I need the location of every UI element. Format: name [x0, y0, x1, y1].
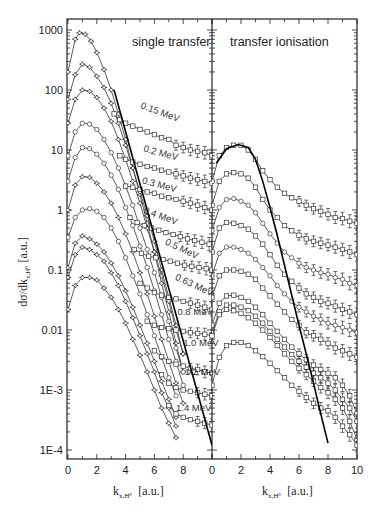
panel-title-single-transfer: single transfer	[132, 35, 211, 49]
x-tick-label: 10	[351, 464, 363, 476]
y-axis-title: dσ/dkx,H⁰ [a.u.]	[16, 237, 32, 306]
x-axis-title-right: kx,H⁰[a.u.]	[262, 484, 313, 500]
panel-single-transfer: 024680.15 MeV0.2 MeV0.3 MeV0.4 MeV0.5 Me…	[65, 19, 221, 476]
energy-label: 0.15 MeV	[139, 100, 182, 124]
panel-title-transfer-ionisation: transfer ionisation	[230, 35, 329, 49]
cross-section-chart: 10001001010.10.011E-31E-4 024680.15 MeV0…	[0, 0, 381, 522]
svg-text:kx,H⁰[a.u.]: kx,H⁰[a.u.]	[262, 484, 313, 500]
x-tick-label: 2	[94, 464, 100, 476]
energy-label: 0.8 MeV	[177, 306, 213, 317]
energy-label: 0.63 MeV	[174, 271, 216, 298]
x-tick-label: 6	[151, 464, 157, 476]
y-tick-label: 100	[45, 84, 63, 96]
x-axis-title-left: kx,H⁰[a.u.]	[113, 484, 164, 500]
y-tick-label: 0.01	[42, 324, 63, 336]
y-tick-label: 1E-3	[40, 384, 63, 396]
series-1.0-mev	[210, 303, 359, 428]
series-0.15-mev	[210, 143, 359, 230]
y-tick-label: 1E-4	[40, 444, 63, 456]
x-tick-label: 8	[180, 464, 186, 476]
x-tick-label: 4	[267, 464, 273, 476]
y-tick-label: 0.1	[48, 264, 63, 276]
y-axis-title-text: dσ/dkx,H⁰ [a.u.]	[16, 237, 32, 306]
series-0.5-mev	[132, 247, 214, 276]
series-0.63-mev	[210, 268, 359, 364]
x-tick-label: 6	[296, 464, 302, 476]
svg-text:kx,H⁰[a.u.]: kx,H⁰[a.u.]	[113, 484, 164, 500]
series-0.5-mev	[210, 245, 359, 340]
x-tick-label: 2	[238, 464, 244, 476]
y-tick-label: 1	[57, 204, 63, 216]
x-tick-label: 4	[123, 464, 129, 476]
x-tick-label: 0	[209, 464, 215, 476]
x-tick-label: 0	[65, 464, 71, 476]
energy-label: 1.4 MeV	[176, 402, 212, 413]
x-tick-label: 8	[325, 464, 331, 476]
y-tick-label: 1000	[39, 24, 63, 36]
panel-transfer-ionisation: 0246810	[209, 19, 363, 476]
y-tick-label: 10	[51, 144, 63, 156]
series-0.3-mev	[210, 196, 359, 292]
